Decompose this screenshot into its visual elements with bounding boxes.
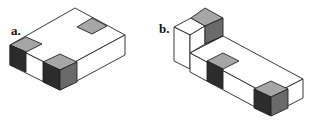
- panel-b-label: b.: [159, 21, 169, 36]
- panel-b: b.: [159, 8, 303, 116]
- panel-a-label: a.: [11, 23, 21, 38]
- column-b-left: [174, 27, 190, 69]
- panel-a: a.: [10, 8, 125, 90]
- isometric-figure: a. b.: [0, 0, 310, 121]
